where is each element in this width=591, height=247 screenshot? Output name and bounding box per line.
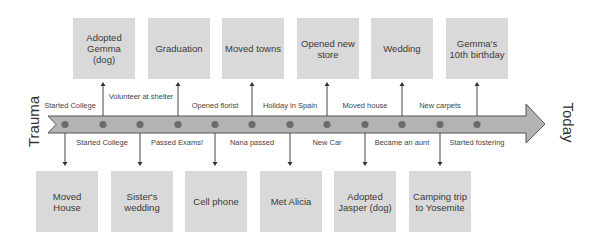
event-label: Cell phone [193, 196, 238, 207]
event-label: Adopted Gemma (dog) [76, 32, 132, 65]
event-label: Wedding [383, 43, 420, 54]
timeline-label-above: Started College [44, 101, 96, 110]
event-label: Moved House [39, 191, 95, 213]
event-box-bottom: Sister's wedding [111, 171, 173, 232]
event-box-bottom: Cell phone [185, 171, 247, 232]
event-box-top: Adopted Gemma (dog) [73, 18, 135, 79]
event-box-top: Gemma's 10th birthday [446, 18, 508, 79]
timeline-label-above: Opened florist [192, 101, 239, 110]
event-box-bottom: Met Alicia [260, 171, 322, 232]
event-box-top: Graduation [148, 18, 210, 79]
event-box-top: Opened new store [297, 18, 359, 79]
event-label: Opened new store [300, 38, 356, 60]
timeline-label-below: Became an aunt [375, 138, 430, 147]
event-box-bottom: Adopted Jasper (dog) [334, 171, 396, 232]
event-box-top: Moved towns [222, 18, 284, 79]
timeline-label-below: New Car [312, 138, 341, 147]
event-box-top: Wedding [371, 18, 433, 79]
timeline-label-above: Volunteer at shelter [106, 92, 176, 101]
event-label: Graduation [155, 43, 202, 54]
event-label: Gemma's 10th birthday [449, 38, 505, 60]
event-label: Moved towns [225, 43, 281, 54]
timeline-label-above: Moved house [342, 101, 387, 110]
timeline-label-below: Nana passed [230, 138, 274, 147]
timeline-label-below: Passed Exams! [151, 138, 203, 147]
timeline-label-above: Holiday in Spain [263, 101, 317, 110]
end-label: Today [560, 102, 577, 142]
event-label: Met Alicia [271, 196, 312, 207]
timeline-label-above: New carpets [419, 101, 461, 110]
start-label: Trauma [25, 96, 42, 147]
timeline-label-below: Started College [76, 138, 128, 147]
event-label: Sister's wedding [114, 191, 170, 213]
timeline-label-below: Started fostering [449, 138, 504, 147]
event-box-bottom: Camping trip to Yosemite [409, 171, 471, 232]
event-label: Camping trip to Yosemite [412, 191, 468, 213]
event-label: Adopted Jasper (dog) [337, 191, 393, 213]
event-box-bottom: Moved House [36, 171, 98, 232]
